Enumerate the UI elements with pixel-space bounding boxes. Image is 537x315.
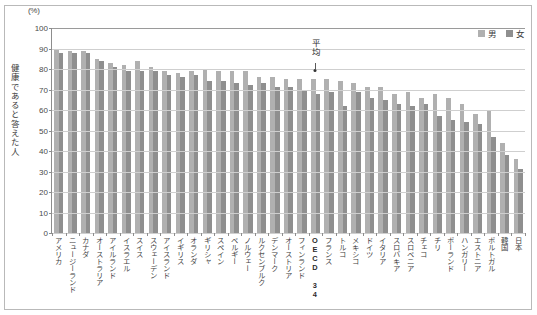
bar-female — [234, 83, 239, 233]
bar-female — [505, 155, 510, 233]
bar-female — [437, 116, 442, 233]
x-axis-category-label: ルクセンブルク — [257, 236, 265, 285]
y-axis-unit-label: (%) — [28, 6, 40, 15]
average-annotation-label: 平均 — [310, 39, 319, 57]
bar-female — [221, 81, 226, 233]
y-axis-title: 健康であると答えた人 — [6, 64, 18, 157]
x-axis-category-label: エストニア — [473, 236, 481, 271]
x-axis-category-label: ハンガリー — [459, 236, 467, 271]
bar-female — [180, 77, 185, 233]
x-axis-category-label: ポルトガル — [486, 236, 494, 271]
average-marker-stem-icon — [315, 63, 316, 69]
bar-female — [140, 71, 145, 233]
bar-female — [194, 75, 199, 233]
x-axis-category-label: ポーランド — [446, 236, 454, 271]
bar-female — [410, 106, 415, 233]
bar-female — [248, 85, 253, 233]
x-axis-tick-mark — [525, 233, 526, 236]
x-axis-category-label: オーストリア — [284, 236, 292, 278]
bar-female — [261, 83, 266, 233]
chart-container: (%) 健康であると答えた人 男 女 010203040506070809010… — [0, 0, 537, 315]
y-axis-tick-mark — [49, 151, 52, 152]
gridline — [52, 233, 525, 234]
x-axis-category-label: フィンランド — [297, 236, 305, 278]
y-axis-tick-label: 10 — [39, 208, 48, 217]
x-axis-category-label: アメリカ — [54, 236, 62, 264]
x-axis-category-label: ニュージーランド — [67, 236, 75, 292]
y-axis-tick-mark — [49, 131, 52, 132]
bar-female — [126, 71, 131, 233]
x-axis-category-label: オランダ — [189, 236, 197, 264]
y-axis-tick-label: 70 — [39, 85, 48, 94]
x-axis-category-label: デンマーク — [270, 236, 278, 271]
y-axis-tick-label: 50 — [39, 126, 48, 135]
x-axis-category-label: スウェーデン — [148, 236, 156, 278]
bar-female — [167, 75, 172, 233]
bar-female — [99, 61, 104, 233]
bar-female — [207, 81, 212, 233]
bar-female — [302, 90, 307, 234]
gridline — [52, 28, 525, 29]
x-axis-category-label: チェコ — [419, 236, 427, 257]
bar-female — [72, 53, 77, 233]
y-axis-tick-mark — [49, 69, 52, 70]
x-axis-category-label: OECD 34 — [311, 236, 319, 299]
gridline — [52, 49, 525, 50]
x-axis-category-label: ドイツ — [365, 236, 373, 257]
x-axis-category-label: スイス — [135, 236, 143, 257]
x-axis-category-label: スペイン — [216, 236, 224, 264]
bar-female — [86, 53, 91, 233]
x-axis-category-label: スロベニア — [405, 236, 413, 271]
y-axis-tick-mark — [49, 213, 52, 214]
gridline — [52, 192, 525, 193]
y-axis-tick-mark — [49, 192, 52, 193]
x-axis-category-label: スロバキア — [392, 236, 400, 271]
bar-female — [424, 104, 429, 233]
x-axis-category-label: トルコ — [338, 236, 346, 257]
x-axis-category-label: イタリア — [378, 236, 386, 264]
y-axis-tick-label: 100 — [35, 24, 48, 33]
y-axis-tick-label: 40 — [39, 147, 48, 156]
y-axis-tick-mark — [49, 28, 52, 29]
bar-female — [59, 53, 64, 233]
x-axis-category-label: ギリシャ — [203, 236, 211, 264]
bar-female — [518, 169, 523, 233]
plot-area: 0102030405060708090100 — [51, 28, 525, 234]
y-axis-tick-label: 90 — [39, 44, 48, 53]
x-axis-category-label: アイスランド — [162, 236, 170, 278]
bar-female — [153, 71, 158, 233]
y-axis-tick-label: 60 — [39, 106, 48, 115]
bar-female — [113, 67, 118, 233]
y-axis-tick-mark — [49, 49, 52, 50]
gridline — [52, 151, 525, 152]
y-axis-tick-mark — [49, 90, 52, 91]
x-axis-category-label: カナダ — [81, 236, 89, 257]
x-axis-category-label: ノルウェー — [243, 236, 251, 271]
bar-female — [478, 124, 483, 233]
y-axis-tick-label: 80 — [39, 65, 48, 74]
bar-female — [397, 104, 402, 233]
x-axis-category-label: 日本 — [513, 236, 521, 250]
average-marker-dot-icon — [313, 69, 316, 72]
x-axis-category-label: 韓国 — [500, 236, 508, 250]
x-axis-category-label: イスラエル — [121, 236, 129, 271]
category-labels: アメリカニュージーランドカナダオーストラリアアイルランドイスラエルスイススウェー… — [51, 236, 524, 310]
x-axis-category-label: チリ — [432, 236, 440, 250]
y-axis-tick-mark — [49, 172, 52, 173]
bar-female — [451, 120, 456, 233]
gridline — [52, 131, 525, 132]
bar-female — [464, 122, 469, 233]
gridline — [52, 110, 525, 111]
gridline — [52, 69, 525, 70]
x-axis-category-label: イギリス — [175, 236, 183, 264]
gridline — [52, 90, 525, 91]
y-axis-tick-mark — [49, 110, 52, 111]
x-axis-category-label: オーストラリア — [94, 236, 102, 285]
y-axis-tick-label: 30 — [39, 167, 48, 176]
gridline — [52, 172, 525, 173]
x-axis-category-label: ベルギー — [230, 236, 238, 264]
bar-female — [343, 106, 348, 233]
x-axis-category-label: アイルランド — [108, 236, 116, 278]
gridline — [52, 213, 525, 214]
x-axis-category-label: メキシコ — [351, 236, 359, 264]
